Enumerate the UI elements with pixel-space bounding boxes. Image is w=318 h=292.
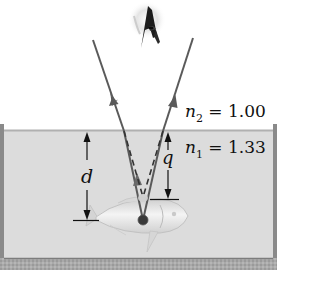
label-q: q [162,147,174,168]
label-d: d [81,165,93,187]
label-n2: n2 = 1.00 [185,101,266,125]
container-right-wall [273,124,277,270]
right-ray-arrow-icon [168,95,178,108]
apparent-depth-diagram: d q n2 = 1.00 n1 = 1.33 [0,0,318,292]
container-floor [0,258,277,270]
eye-icon [128,1,166,48]
image-point [138,194,148,202]
container-left-wall [0,124,4,270]
diagram-canvas: d q n2 = 1.00 n1 = 1.33 [0,0,318,292]
object-point [138,215,148,225]
